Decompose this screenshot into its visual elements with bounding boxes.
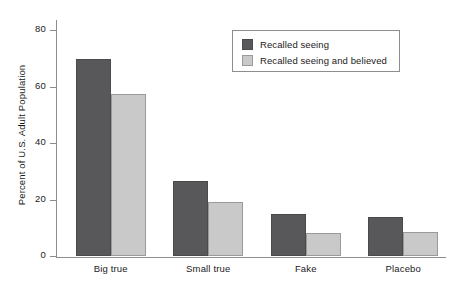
bar xyxy=(208,202,243,256)
bar xyxy=(403,232,438,256)
bar xyxy=(271,214,306,256)
y-axis-title: Percent of U.S. Adult Population xyxy=(14,15,30,255)
x-axis-line xyxy=(56,257,446,258)
bar xyxy=(306,233,341,256)
chart-legend: Recalled seeing Recalled seeing and beli… xyxy=(232,30,400,72)
x-axis-tick-label: Big true xyxy=(61,263,161,274)
legend-swatch-icon-series-1 xyxy=(242,55,253,66)
bar xyxy=(173,181,208,256)
legend-label-series-0: Recalled seeing xyxy=(260,39,329,50)
bar-chart-figure: Percent of U.S. Adult Population 0204060… xyxy=(0,0,458,289)
y-axis-tick-label: 40 xyxy=(35,136,46,147)
y-axis-tick-label: 60 xyxy=(35,80,46,91)
bar xyxy=(111,94,146,256)
legend-swatch-icon-series-0 xyxy=(242,39,253,50)
y-axis-tick: 40 xyxy=(50,143,56,144)
y-axis-tick: 20 xyxy=(50,200,56,201)
bar xyxy=(368,217,403,257)
bar xyxy=(76,59,111,257)
legend-entry-recalled-seeing: Recalled seeing xyxy=(242,37,399,52)
y-axis-tick: 0 xyxy=(50,256,56,257)
y-axis-line xyxy=(56,20,57,258)
y-axis-tick-label: 20 xyxy=(35,193,46,204)
x-axis-tick-label: Small true xyxy=(158,263,258,274)
y-axis-tick-label: 0 xyxy=(41,249,46,260)
legend-label-series-1: Recalled seeing and believed xyxy=(260,55,387,66)
x-axis-tick-label: Fake xyxy=(256,263,356,274)
y-axis-tick: 80 xyxy=(50,30,56,31)
legend-entry-recalled-seeing-and-believed: Recalled seeing and believed xyxy=(242,53,399,68)
bar-group xyxy=(76,19,146,256)
y-axis-tick-label: 80 xyxy=(35,23,46,34)
x-axis-tick-label: Placebo xyxy=(353,263,453,274)
y-axis-tick: 60 xyxy=(50,87,56,88)
